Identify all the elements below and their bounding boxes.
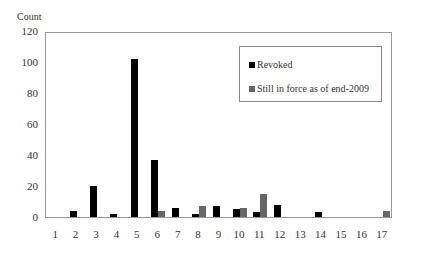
legend-item-still-in-force: Still in force as of end-2009 [249,83,369,94]
x-tick-label: 10 [229,228,249,240]
bar-revoked [151,160,158,217]
x-tick-label: 16 [351,228,371,240]
y-tick-label: 60 [8,118,38,130]
y-axis-label: Count [17,11,41,22]
bar-still-in-force [158,211,165,217]
y-tick-label: 0 [8,211,38,223]
bar-revoked [131,59,138,217]
y-tick-label: 120 [8,25,38,37]
x-tick-label: 5 [127,228,147,240]
legend-item-revoked: Revoked [249,59,293,70]
x-tick-label: 15 [331,228,351,240]
x-tick-label: 1 [45,228,65,240]
y-tick-label: 20 [8,180,38,192]
bar-revoked [315,212,322,217]
bar-revoked [213,206,220,217]
legend-swatch-still-in-force [249,86,255,92]
bar-still-in-force [240,208,247,217]
x-tick-label: 9 [209,228,229,240]
x-tick-label: 13 [290,228,310,240]
y-tick-label: 100 [8,56,38,68]
x-tick-label: 4 [106,228,126,240]
bar-revoked [233,209,240,217]
bar-revoked [172,208,179,217]
x-tick-label: 8 [188,228,208,240]
x-tick-label: 17 [372,228,392,240]
x-tick-label: 7 [168,228,188,240]
bar-still-in-force [199,206,206,217]
x-tick-label: 2 [66,228,86,240]
bar-revoked [192,214,199,217]
bar-revoked [253,212,260,217]
x-tick-label: 12 [270,228,290,240]
x-tick-label: 11 [249,228,269,240]
bar-revoked [70,211,77,217]
bar-revoked [90,186,97,217]
legend-swatch-revoked [249,62,255,68]
y-tick-label: 40 [8,149,38,161]
y-tick-label: 80 [8,87,38,99]
x-tick-label: 14 [311,228,331,240]
bar-still-in-force [383,211,390,217]
legend: Revoked Still in force as of end-2009 [239,46,382,102]
x-tick-label: 3 [86,228,106,240]
bar-still-in-force [260,194,267,217]
bar-revoked [110,214,117,217]
x-tick-label: 6 [147,228,167,240]
bar-revoked [274,205,281,217]
